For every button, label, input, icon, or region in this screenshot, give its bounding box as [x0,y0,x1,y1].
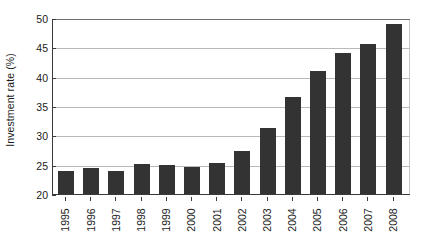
x-tick-label-text: 2004 [286,208,298,231]
x-tick-label-2008: 2008 [387,201,399,241]
y-tick-label-50: 50 [24,14,48,24]
y-tick-mark-45 [52,48,56,49]
x-tick-label-2004: 2004 [286,201,298,241]
x-tick-label-text: 2008 [387,208,399,231]
x-tick-label-text: 2005 [311,208,323,231]
gridline-35 [53,107,410,108]
y-axis-title: Investment rate (%) [0,0,20,200]
x-tick-label-2006: 2006 [336,201,348,241]
bar-2005 [310,71,326,194]
bar-2006 [335,53,351,194]
gridline-40 [53,78,410,79]
investment-rate-bar-chart: Investment rate (%) 20253035404550 19951… [0,0,430,250]
x-tick-label-text: 1997 [109,208,121,231]
bar-2000 [184,167,200,194]
gridline-50 [53,19,410,20]
plot-area [52,19,410,195]
bar-1999 [159,165,175,194]
x-tick-label-1999: 1999 [160,201,172,241]
x-tick-label-text: 2000 [185,208,197,231]
y-tick-mark-30 [52,136,56,137]
y-tick-label-20: 20 [24,190,48,200]
bar-1997 [108,171,124,194]
y-tick-label-45: 45 [24,43,48,53]
x-tick-label-1996: 1996 [84,201,96,241]
x-tick-label-2001: 2001 [210,201,222,241]
y-tick-mark-50 [52,19,56,20]
x-tick-label-text: 2006 [336,208,348,231]
x-tick-label-1995: 1995 [59,201,71,241]
x-tick-label-text: 1995 [59,208,71,231]
x-tick-label-text: 2002 [235,208,247,231]
gridline-30 [53,136,410,137]
x-tick-label-text: 2003 [261,208,273,231]
x-tick-label-text: 1998 [135,208,147,231]
x-tick-label-text: 1996 [84,208,96,231]
x-tick-label-text: 2001 [210,208,222,231]
x-tick-label-2003: 2003 [261,201,273,241]
x-tick-label-2002: 2002 [235,201,247,241]
y-tick-mark-20 [52,195,56,196]
gridline-25 [53,166,410,167]
y-tick-label-35: 35 [24,102,48,112]
x-tick-label-2000: 2000 [185,201,197,241]
y-axis-tick-labels: 20253035404550 [20,19,48,195]
bar-2004 [285,97,301,194]
bar-1998 [134,164,150,194]
y-tick-mark-40 [52,78,56,79]
bar-1995 [58,171,74,194]
y-tick-label-30: 30 [24,131,48,141]
y-tick-label-25: 25 [24,161,48,171]
x-tick-label-text: 2007 [361,208,373,231]
bar-2007 [360,44,376,194]
y-tick-label-40: 40 [24,73,48,83]
x-axis-tick-labels: 1995199619971998199920002001200220032004… [52,197,410,249]
y-tick-mark-25 [52,166,56,167]
x-tick-label-1998: 1998 [135,201,147,241]
y-axis-title-text: Investment rate (%) [4,53,16,147]
bar-1996 [83,168,99,194]
x-tick-label-2007: 2007 [361,201,373,241]
bar-2002 [234,151,250,194]
x-tick-label-1997: 1997 [109,201,121,241]
x-tick-label-2005: 2005 [311,201,323,241]
bar-2008 [386,24,402,194]
y-tick-mark-35 [52,107,56,108]
gridline-45 [53,48,410,49]
x-tick-label-text: 1999 [160,208,172,231]
bar-2001 [209,163,225,194]
bar-2003 [260,128,276,194]
